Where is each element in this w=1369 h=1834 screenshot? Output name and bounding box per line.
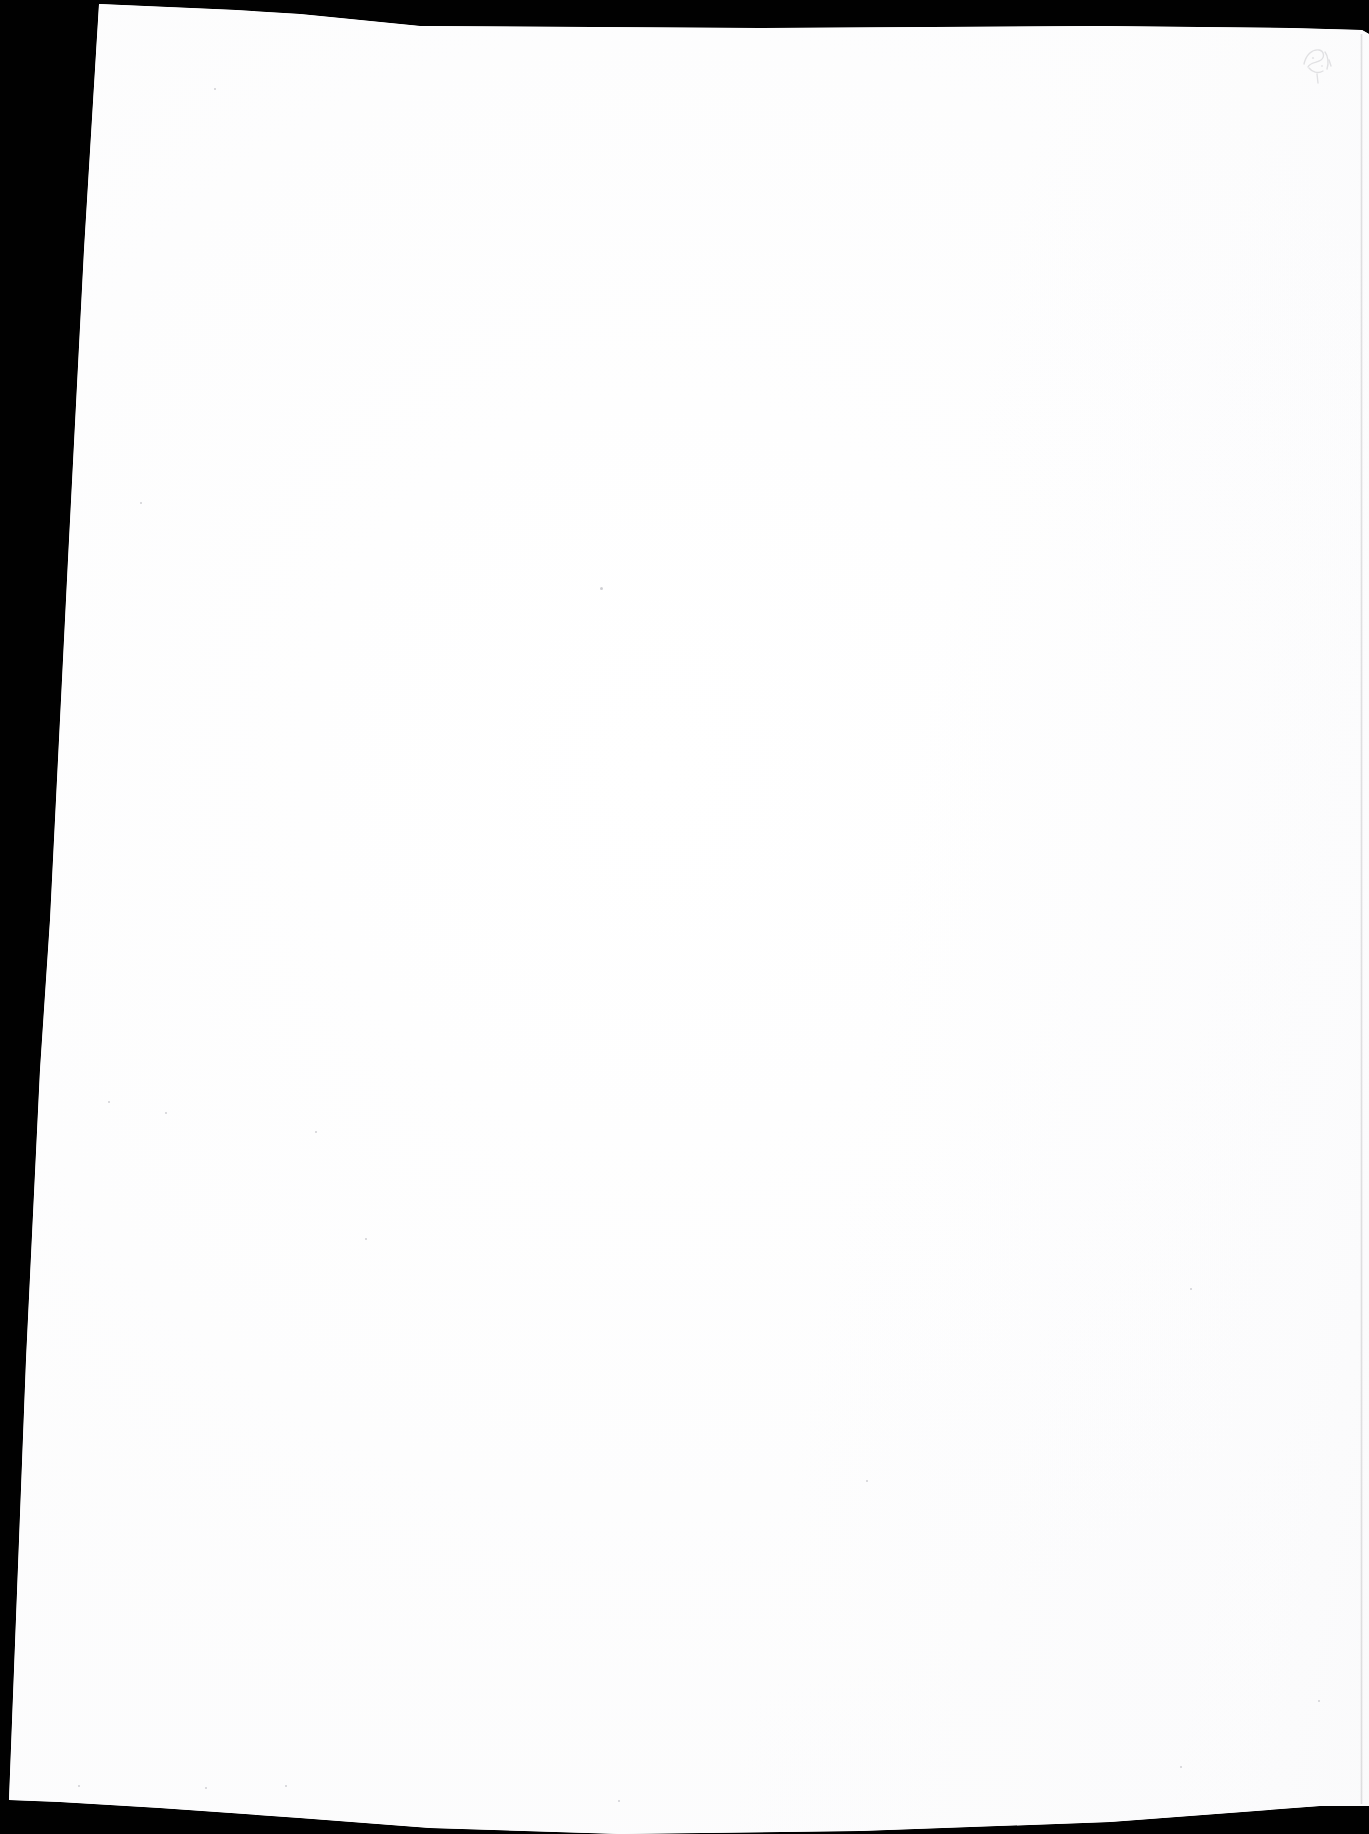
page-body bbox=[140, 120, 1279, 1714]
paper-sheet bbox=[0, 0, 1369, 1834]
scanned-page-frame: Blank page bbox=[0, 0, 1369, 1834]
